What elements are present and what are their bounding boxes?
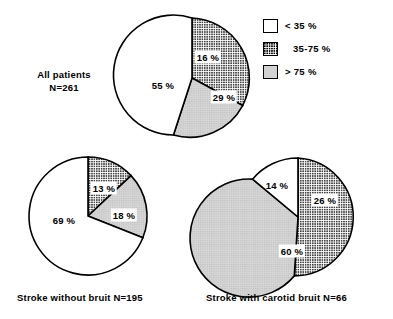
all-patients-pie	[113, 15, 249, 137]
stroke-with-carotid-bruit-caption: Stroke with carotid bruit N=66	[206, 291, 347, 304]
slice-value-all-patients-lt-35: 55 %	[152, 80, 174, 91]
slice-value-with-bruit-lt-35: 14 %	[266, 180, 288, 191]
legend-item-gt-75: > 75 %	[263, 60, 388, 83]
slice-value-without-bruit-lt-35: 69 %	[53, 215, 75, 226]
severity-legend: < 35 % 35-75 % > 75 %	[263, 14, 388, 83]
stroke-without-bruit-caption: Stroke without bruit N=195	[17, 291, 143, 304]
slice-value-without-bruit-gt-75: 18 %	[111, 209, 137, 222]
slice-value-with-bruit-gt-75: 60 %	[279, 245, 305, 258]
pie-chart-figure: 16 % 29 % 55 % 13 % 18 % 69 % 26 % 60 % …	[0, 0, 393, 319]
legend-label-35-75: 35-75 %	[293, 43, 330, 54]
legend-item-lt-35: < 35 %	[263, 14, 388, 37]
white-square-icon	[263, 19, 278, 33]
slice-value-without-bruit-35-75: 13 %	[91, 182, 117, 195]
legend-item-35-75: 35-75 %	[263, 37, 388, 60]
slice-value-with-bruit-35-75: 26 %	[312, 194, 338, 207]
gray-square-icon	[263, 65, 278, 79]
slice-value-all-patients-35-75: 16 %	[195, 51, 221, 64]
slice-value-all-patients-gt-75: 29 %	[211, 91, 237, 104]
legend-label-lt-35: < 35 %	[285, 20, 317, 31]
slice-35-75	[294, 158, 353, 276]
dotted-square-icon	[263, 42, 278, 56]
legend-label-gt-75: > 75 %	[285, 66, 317, 77]
all-patients-label: All patients N=261	[18, 68, 110, 94]
all-patients-label-line2: N=261	[18, 81, 110, 94]
all-patients-label-line1: All patients	[18, 68, 110, 81]
